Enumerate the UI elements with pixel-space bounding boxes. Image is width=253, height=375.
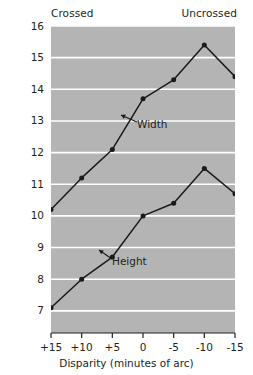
y-tick-label: 12 <box>31 147 44 158</box>
chart-svg <box>51 26 235 333</box>
series-annotation-width: Width <box>137 118 168 130</box>
y-tick-label: 10 <box>31 210 44 221</box>
x-tick-label: +15 <box>40 342 62 353</box>
annotation-arrows <box>99 114 137 259</box>
y-tick-label: 9 <box>37 242 44 253</box>
y-tick-label: 11 <box>31 179 44 190</box>
y-tick-label: 16 <box>31 21 44 32</box>
y-tick-label: 7 <box>37 305 44 316</box>
axis-header-right: Uncrossed <box>181 7 237 19</box>
series-annotation-height: Height <box>112 255 147 267</box>
x-axis-title: Disparity (minutes of arc) <box>0 357 253 369</box>
x-tick-label: -15 <box>226 342 243 353</box>
data-series-layer <box>51 42 235 310</box>
y-axis-tick-labels: 78910111213141516 <box>0 0 51 375</box>
gridlines <box>51 26 235 311</box>
x-tick-label: +10 <box>71 342 93 353</box>
axis-header-left: Crossed <box>51 7 94 19</box>
y-tick-label: 13 <box>31 115 44 126</box>
x-tick-label: 0 <box>140 342 147 353</box>
x-tick-label: -10 <box>196 342 213 353</box>
figure-container: Crossed Uncrossed 78910111213141516 Mean… <box>0 0 253 375</box>
x-tick-label: -5 <box>168 342 178 353</box>
y-tick-label: 8 <box>37 274 44 285</box>
y-tick-label: 14 <box>31 84 44 95</box>
y-tick-label: 15 <box>31 52 44 63</box>
plot-area <box>51 26 235 333</box>
x-tick-label: +5 <box>105 342 120 353</box>
